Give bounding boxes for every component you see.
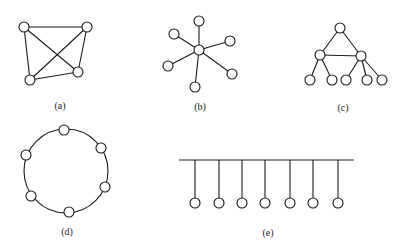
node-circle bbox=[82, 22, 92, 32]
node-circle bbox=[260, 198, 270, 208]
node-circle bbox=[237, 198, 247, 208]
node-circle bbox=[25, 75, 35, 85]
node-circle bbox=[26, 191, 36, 201]
node-circle bbox=[225, 36, 235, 46]
node-circle bbox=[64, 207, 74, 217]
bus-topology-diagram bbox=[179, 160, 354, 208]
edge-line bbox=[24, 27, 30, 80]
node-circle bbox=[333, 198, 343, 208]
panel-label-e: (e) bbox=[262, 227, 273, 239]
node-circle bbox=[190, 198, 200, 208]
node-circle bbox=[285, 198, 295, 208]
panel-label-a: (a) bbox=[54, 100, 65, 112]
panel-label-b: (b) bbox=[194, 101, 206, 113]
edge-line bbox=[24, 27, 78, 72]
panel-label-d: (d) bbox=[61, 226, 73, 238]
node-circle bbox=[194, 16, 204, 26]
node-circle bbox=[214, 198, 224, 208]
ring-topology-diagram bbox=[21, 125, 110, 217]
edge-line bbox=[320, 55, 361, 56]
node-circle bbox=[305, 75, 315, 85]
edge-line bbox=[199, 50, 232, 74]
node-circle bbox=[190, 82, 200, 92]
node-circle bbox=[21, 150, 31, 160]
node-circle bbox=[19, 22, 29, 32]
node-circle bbox=[227, 69, 237, 79]
node-circle bbox=[315, 50, 325, 60]
node-circle bbox=[377, 75, 387, 85]
edge-line bbox=[195, 50, 199, 87]
node-circle bbox=[169, 29, 179, 39]
node-circle bbox=[308, 198, 318, 208]
node-circle bbox=[100, 182, 110, 192]
topology-figure: (a) (b) (c) (d) (e) bbox=[0, 0, 403, 250]
node-circle bbox=[327, 75, 337, 85]
node-circle bbox=[163, 61, 173, 71]
ring-line bbox=[24, 129, 108, 213]
tree-topology-diagram bbox=[305, 23, 387, 85]
node-circle bbox=[362, 75, 372, 85]
node-circle bbox=[335, 23, 345, 33]
node-circle bbox=[96, 143, 106, 153]
mesh-topology-diagram bbox=[19, 22, 92, 85]
panel-label-c: (c) bbox=[337, 102, 348, 114]
node-circle bbox=[194, 45, 204, 55]
node-circle bbox=[356, 51, 366, 61]
node-circle bbox=[341, 75, 351, 85]
star-topology-diagram bbox=[163, 16, 237, 92]
node-circle bbox=[59, 125, 69, 135]
node-circle bbox=[73, 67, 83, 77]
